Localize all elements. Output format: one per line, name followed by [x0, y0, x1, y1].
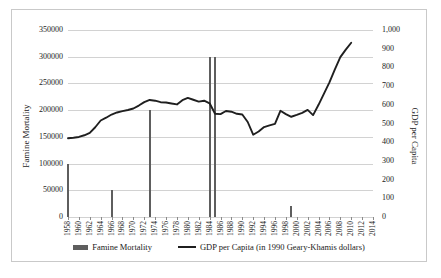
x-tick-label: 1962 — [86, 221, 94, 236]
x-tickmark — [231, 217, 232, 220]
x-tick-label: 2010 — [347, 221, 355, 236]
right-tick-label: 700 — [382, 82, 394, 90]
x-tick-label: 2000 — [293, 221, 301, 236]
x-tick-label: 2006 — [326, 221, 334, 236]
line-swatch-icon — [178, 246, 196, 248]
x-tick-label: 1984 — [206, 221, 214, 236]
x-tickmark — [144, 217, 145, 220]
x-tickmark — [329, 217, 330, 220]
left-tick-label: 250000 — [39, 79, 63, 87]
x-tick-label: 1966 — [108, 221, 116, 236]
x-tick-label: 1978 — [173, 221, 181, 236]
right-tick-label: 300 — [382, 157, 394, 165]
x-tickmark — [155, 217, 156, 220]
x-tick-label: 1996 — [271, 221, 279, 236]
x-tick-label: 1988 — [228, 221, 236, 236]
x-tickmark — [199, 217, 200, 220]
x-tickmark — [68, 217, 69, 220]
bar-swatch-icon — [73, 245, 88, 250]
left-tick-label: 200000 — [39, 106, 63, 114]
x-tickmark — [275, 217, 276, 220]
right-tick-label: 400 — [382, 138, 394, 146]
x-tickmark — [351, 217, 352, 220]
x-tickmark — [319, 217, 320, 220]
x-tick-label: 2004 — [315, 221, 323, 236]
x-tickmark — [79, 217, 80, 220]
left-tick-label: 100000 — [39, 160, 63, 168]
x-tickmark — [122, 217, 123, 220]
right-tick-label: 500 — [382, 120, 394, 128]
right-tick-label: 100 — [382, 194, 394, 202]
x-tick-label: 1968 — [119, 221, 127, 236]
plot-area: 0500001000001500002000002500003000003500… — [68, 30, 373, 217]
x-tickmark — [340, 217, 341, 220]
x-tickmark — [242, 217, 243, 220]
legend-label-gdp-per-capita: GDP per Capita (in 1990 Geary-Khamis dol… — [200, 242, 365, 252]
x-tick-label: 1964 — [97, 221, 105, 236]
x-tickmark — [297, 217, 298, 220]
gdp-per-capita-line — [68, 30, 373, 217]
x-tick-label: 2002 — [304, 221, 312, 236]
x-tickmark — [210, 217, 211, 220]
x-tickmark — [286, 217, 287, 220]
x-tick-label: 1992 — [249, 221, 257, 236]
x-tickmark — [188, 217, 189, 220]
x-tick-label: 2012 — [358, 221, 366, 236]
chart-legend: Famine Mortality GDP per Capita (in 1990… — [12, 242, 426, 252]
left-tick-label: 50000 — [43, 186, 63, 194]
x-tick-label: 1976 — [162, 221, 170, 236]
x-tick-label: 1994 — [260, 221, 268, 236]
right-tick-label: 600 — [382, 101, 394, 109]
x-tickmark — [373, 217, 374, 220]
right-tick-label: 1,000 — [382, 26, 400, 34]
x-tick-label: 1982 — [195, 221, 203, 236]
x-tickmark — [90, 217, 91, 220]
x-tickmark — [362, 217, 363, 220]
x-tickmark — [177, 217, 178, 220]
left-tick-label: 150000 — [39, 133, 63, 141]
x-tickmark — [264, 217, 265, 220]
x-tickmark — [308, 217, 309, 220]
legend-item-famine-mortality: Famine Mortality — [73, 242, 152, 252]
left-tick-label: 300000 — [39, 53, 63, 61]
x-tick-label: 1980 — [184, 221, 192, 236]
right-tick-label: 800 — [382, 63, 394, 71]
legend-label-famine-mortality: Famine Mortality — [92, 242, 152, 252]
right-tick-label: 0 — [382, 213, 386, 221]
legend-item-gdp-per-capita: GDP per Capita (in 1990 Geary-Khamis dol… — [178, 242, 365, 252]
x-tickmark — [221, 217, 222, 220]
x-tick-label: 1970 — [130, 221, 138, 236]
x-tick-label: 1998 — [282, 221, 290, 236]
x-tick-label: 2008 — [337, 221, 345, 236]
x-tickmark — [166, 217, 167, 220]
left-axis-title: Famine Mortality — [21, 104, 31, 167]
x-tickmark — [112, 217, 113, 220]
x-tick-label: 1986 — [217, 221, 225, 236]
right-tick-label: 900 — [382, 45, 394, 53]
right-tick-label: 200 — [382, 176, 394, 184]
left-tick-label: 0 — [59, 213, 63, 221]
x-tick-label: 1974 — [151, 221, 159, 236]
x-tick-label: 1990 — [239, 221, 247, 236]
right-axis-title: GDP per Capita — [410, 107, 420, 164]
x-tickmark — [133, 217, 134, 220]
x-tick-label: 1958 — [64, 221, 72, 236]
x-tickmark — [253, 217, 254, 220]
x-tick-label: 1960 — [75, 221, 83, 236]
x-tick-label: 1972 — [141, 221, 149, 236]
left-tick-label: 350000 — [39, 26, 63, 34]
chart-figure: Famine Mortality GDP per Capita 05000010… — [11, 9, 427, 262]
x-tickmark — [101, 217, 102, 220]
x-tick-label: 2014 — [369, 221, 377, 236]
